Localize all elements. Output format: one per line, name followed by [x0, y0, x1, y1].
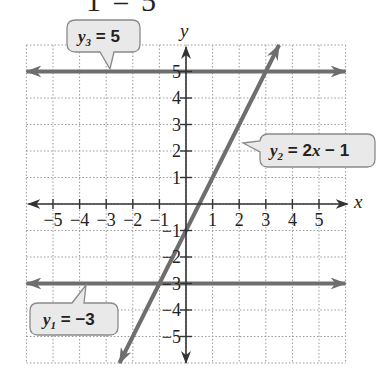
cropped-top-text: 1 = 5: [86, 0, 158, 18]
y-tick-label: −2: [162, 247, 181, 267]
callout-y2-eq: = 2: [283, 141, 312, 160]
callout-y1-var: y: [41, 310, 51, 329]
y-tick-label: −4: [162, 300, 181, 320]
x-tick-label: 4: [288, 210, 297, 230]
callout-y2-x: x: [311, 141, 321, 160]
callout-y2-tail: − 1: [320, 141, 349, 160]
y-tick-label: −1: [162, 221, 181, 241]
y-tick-label: −3: [162, 274, 181, 294]
callout-y1: y1 = −3: [30, 285, 118, 335]
x-tick-label: 5: [315, 210, 324, 230]
x-tick-label: 1: [208, 210, 217, 230]
callout-y3: y3 = 5: [67, 20, 140, 69]
callout-y2: y2 = 2x − 1: [243, 134, 375, 167]
callout-y1-rest: = −3: [56, 310, 95, 329]
y-tick-label: 1: [172, 168, 181, 188]
callout-y2-var: y: [268, 141, 278, 160]
x-tick-label: −3: [97, 210, 116, 230]
x-tick-label: −5: [43, 210, 62, 230]
x-tick-label: −2: [123, 210, 142, 230]
y-tick-label: −5: [162, 327, 181, 347]
x-axis-label: x: [353, 191, 363, 212]
y-axis-label: y: [178, 20, 189, 41]
y-tick-label: 3: [172, 115, 181, 135]
x-tick-label: −4: [70, 210, 89, 230]
svg-text:y3 = 5: y3 = 5: [76, 27, 120, 48]
callout-y3-var: y: [76, 27, 86, 46]
x-tick-label: 2: [235, 210, 244, 230]
x-tick-label: 3: [261, 210, 270, 230]
coordinate-plane: −5−4−3−2−112345−5−4−3−2−112345 x y y3 = …: [0, 0, 392, 372]
svg-text:y1 = −3: y1 = −3: [41, 310, 95, 331]
y-tick-label: 4: [172, 88, 181, 108]
y-tick-label: 5: [172, 62, 181, 82]
y-tick-label: 2: [172, 141, 181, 161]
callout-y3-rest: = 5: [91, 27, 120, 46]
graph-figure: 1 = 5 −5−4−3−2−112345−5−4−3−2−112345 x y…: [0, 0, 392, 372]
